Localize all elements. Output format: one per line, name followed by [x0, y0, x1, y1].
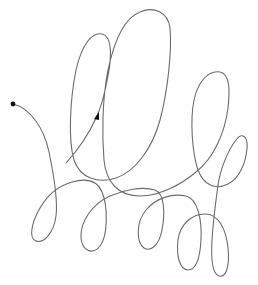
curve-segment-right — [66, 10, 247, 196]
direction-arrow-icon — [94, 112, 99, 120]
start-point-marker — [11, 102, 16, 107]
curve-segment-start — [13, 104, 229, 276]
looping-curve-diagram — [0, 0, 258, 285]
